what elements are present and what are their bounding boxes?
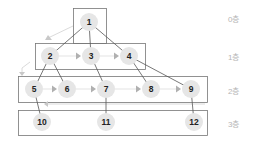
arrow-8-9-icon <box>176 86 181 93</box>
arrow-5-6-icon <box>52 86 57 93</box>
svg-text:4: 4 <box>127 51 132 61</box>
node-12: 12 <box>185 113 203 131</box>
node-11: 11 <box>97 113 115 131</box>
svg-text:5: 5 <box>32 84 37 94</box>
tree-edges <box>34 22 194 122</box>
node-2: 2 <box>41 47 59 65</box>
node-9: 9 <box>182 80 200 98</box>
node-4: 4 <box>120 47 138 65</box>
svg-text:11: 11 <box>102 117 111 127</box>
svg-text:10: 10 <box>37 117 47 127</box>
layer-label-1: 1층 <box>228 51 239 62</box>
svg-text:6: 6 <box>65 84 70 94</box>
svg-text:12: 12 <box>189 117 199 127</box>
node-10: 10 <box>33 113 51 131</box>
arrow-6-7-icon <box>91 86 96 93</box>
svg-text:2: 2 <box>48 51 53 61</box>
arrow-7-8-icon <box>136 86 141 93</box>
node-3: 3 <box>82 47 100 65</box>
svg-text:3: 3 <box>89 51 94 61</box>
layer-label-2: 2층 <box>228 85 239 96</box>
svg-text:1: 1 <box>87 17 92 27</box>
node-5: 5 <box>25 80 43 98</box>
layer-label-0: 0층 <box>228 13 239 24</box>
layer-label-3: 3층 <box>228 118 239 129</box>
arrow-3-4-icon <box>114 53 119 60</box>
svg-text:9: 9 <box>189 84 194 94</box>
svg-text:7: 7 <box>104 84 109 94</box>
node-8: 8 <box>142 80 160 98</box>
node-6: 6 <box>58 80 76 98</box>
svg-text:8: 8 <box>149 84 154 94</box>
arrow-2-3-icon <box>76 53 81 60</box>
bfs-tree-diagram: 123456789101112 <box>0 0 257 145</box>
node-1: 1 <box>80 13 98 31</box>
node-7: 7 <box>97 80 115 98</box>
tree-nodes: 123456789101112 <box>25 13 203 131</box>
edge-4-9 <box>129 56 191 89</box>
